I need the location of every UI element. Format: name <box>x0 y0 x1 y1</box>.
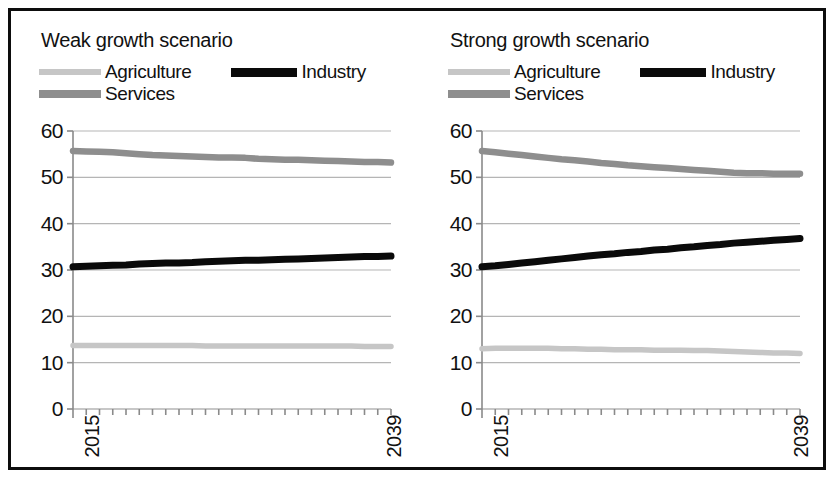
legend-item-agriculture: Agriculture <box>39 61 191 83</box>
y-axis-tick-label: 10 <box>41 351 63 375</box>
y-axis-tick-label: 20 <box>450 304 472 328</box>
y-axis-tick-label: 60 <box>41 119 63 143</box>
y-axis-tick-label: 20 <box>41 304 63 328</box>
panel-strong-growth: Strong growth scenario Agriculture Indus… <box>420 11 826 467</box>
y-axis-tick-label: 50 <box>41 165 63 189</box>
panel-weak-growth: Weak growth scenario Agriculture Industr… <box>11 11 420 467</box>
y-axis-tick-label: 30 <box>41 258 63 282</box>
legend-swatch-agriculture-icon <box>448 69 510 75</box>
y-axis-tick-label: 10 <box>450 351 472 375</box>
y-axis-tick-label: 0 <box>52 397 63 421</box>
plot-area-strong <box>482 131 800 409</box>
legend-swatch-industry-icon <box>231 68 297 77</box>
legend-swatch-services-icon <box>39 90 101 98</box>
legend-label-services: Services <box>514 83 584 105</box>
legend-item-industry: Industry <box>640 61 774 83</box>
legend-weak: Agriculture Industry Services <box>39 61 399 105</box>
legend-swatch-services-icon <box>448 90 510 98</box>
y-axis-tick-label: 40 <box>450 212 472 236</box>
y-axis-tick-label: 50 <box>450 165 472 189</box>
plot-svg-strong <box>482 131 800 409</box>
legend-label-agriculture: Agriculture <box>514 61 600 83</box>
legend-label-agriculture: Agriculture <box>105 61 191 83</box>
y-axis-tick-label: 0 <box>461 397 472 421</box>
panel-title-weak: Weak growth scenario <box>41 29 233 52</box>
y-axis-labels-weak: 0102030405060 <box>11 131 69 409</box>
legend-strong: Agriculture Industry Services <box>448 61 808 105</box>
series-line-industry <box>73 256 391 267</box>
plot-area-weak <box>73 131 391 409</box>
x-axis-label-last-weak: 2039 <box>383 415 406 458</box>
y-axis-tick-label: 60 <box>450 119 472 143</box>
series-line-services <box>73 151 391 163</box>
legend-label-services: Services <box>105 83 175 105</box>
legend-label-industry: Industry <box>710 61 774 83</box>
legend-swatch-industry-icon <box>640 68 706 77</box>
y-axis-tick-label: 30 <box>450 258 472 282</box>
figure-frame: Weak growth scenario Agriculture Industr… <box>8 8 826 470</box>
y-axis-labels-strong: 0102030405060 <box>420 131 478 409</box>
plot-svg-weak <box>73 131 391 409</box>
y-axis-tick-label: 40 <box>41 212 63 236</box>
x-axis-label-first-strong: 2015 <box>490 415 513 458</box>
series-line-services <box>482 151 800 174</box>
legend-item-agriculture: Agriculture <box>448 61 600 83</box>
legend-item-industry: Industry <box>231 61 365 83</box>
series-line-agriculture <box>482 348 800 353</box>
legend-item-services: Services <box>39 83 175 105</box>
x-axis-label-last-strong: 2039 <box>790 415 813 458</box>
legend-label-industry: Industry <box>301 61 365 83</box>
legend-item-services: Services <box>448 83 584 105</box>
series-line-industry <box>482 238 800 266</box>
series-line-agriculture <box>73 346 391 347</box>
legend-swatch-agriculture-icon <box>39 69 101 75</box>
panel-title-strong: Strong growth scenario <box>450 29 649 52</box>
x-axis-label-first-weak: 2015 <box>81 415 104 458</box>
